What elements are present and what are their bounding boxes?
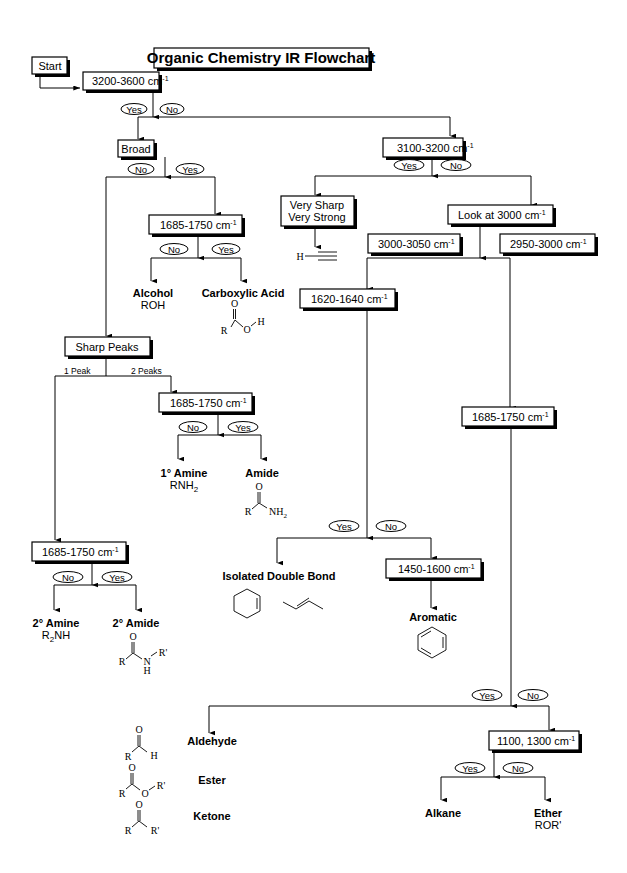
- svg-text:3200-3600 cm-1: 3200-3600 cm-1: [92, 75, 169, 87]
- start-node: Start: [32, 57, 70, 77]
- result-alkane: Alkane: [425, 807, 461, 819]
- node-sharp-peaks-label: Sharp Peaks: [76, 341, 139, 353]
- answer-no: No: [376, 521, 406, 532]
- result-ketone: Ketone O R R': [125, 799, 231, 836]
- node-1685-1750-carbonyl: 1685-1750 cm-1: [462, 407, 557, 429]
- svg-text:1100, 1300 cm-1: 1100, 1300 cm-1: [497, 735, 575, 747]
- result-alcohol: Alcohol ROH: [133, 287, 173, 311]
- svg-text:NH2: NH2: [269, 506, 287, 520]
- title-box: Organic Chemistry IR Flowchart: [147, 48, 375, 71]
- svg-text:Yes: Yes: [336, 521, 352, 532]
- svg-text:Ether: Ether: [534, 807, 563, 819]
- amide-structure: O R NH2: [245, 481, 288, 520]
- terminal-alkyne-structure: H: [296, 251, 337, 262]
- start-label: Start: [38, 60, 61, 72]
- answer-yes: Yes: [394, 160, 424, 171]
- unit-superscript: -1: [230, 219, 236, 226]
- node-1685-1750-amide: 1685-1750 cm-1: [159, 393, 255, 415]
- svg-text:ROR': ROR': [535, 819, 562, 831]
- carboxylic-acid-structure: O R O H: [221, 298, 265, 336]
- answer-yes: Yes: [212, 244, 240, 255]
- svg-text:No: No: [187, 422, 199, 433]
- node-label: 1450-1600 cm: [398, 563, 468, 575]
- node-1450-1600: 1450-1600 cm-1: [386, 559, 484, 581]
- svg-text:O: O: [135, 799, 142, 810]
- unit-superscript: -1: [542, 411, 548, 418]
- svg-text:R: R: [119, 788, 126, 799]
- svg-text:Amide: Amide: [245, 467, 279, 479]
- svg-text:No: No: [512, 763, 524, 774]
- result-ether: Ether ROR': [534, 807, 563, 831]
- svg-text:2° Amide: 2° Amide: [113, 617, 160, 629]
- node-1685-1750-secondary: 1685-1750 cm-1: [32, 542, 129, 564]
- svg-text:ROH: ROH: [141, 299, 166, 311]
- svg-text:Isolated Double Bond: Isolated Double Bond: [222, 570, 335, 582]
- svg-text:Ester: Ester: [198, 774, 226, 786]
- svg-text:Yes: Yes: [479, 690, 495, 701]
- svg-text:H: H: [150, 750, 157, 761]
- svg-text:No: No: [135, 164, 147, 175]
- answer-no: No: [160, 244, 188, 255]
- svg-text:1685-1750 cm-1: 1685-1750 cm-1: [170, 397, 247, 409]
- answer-no: No: [160, 104, 184, 115]
- svg-text:Yes: Yes: [109, 572, 125, 583]
- svg-text:R: R: [119, 656, 126, 667]
- answer-no: No: [441, 160, 471, 171]
- answer-yes: Yes: [455, 763, 485, 774]
- unit-superscript: -1: [240, 397, 246, 404]
- result-secondary-amine: 2° Amine R2NH: [33, 617, 80, 644]
- svg-text:1450-1600 cm-1: 1450-1600 cm-1: [398, 563, 475, 575]
- result-ester: Ester O R O R': [119, 762, 227, 799]
- secondary-amide-structure: O R N H R': [119, 631, 168, 676]
- svg-text:3100-3200 cm-1: 3100-3200 cm-1: [397, 142, 474, 154]
- svg-text:R': R': [159, 647, 168, 658]
- node-very-sharp-very-strong: Very Sharp Very Strong: [281, 196, 357, 229]
- answer-yes: Yes: [176, 164, 204, 175]
- node-look-at-3000: Look at 3000 cm-1: [448, 205, 556, 227]
- node-label: 3100-3200 cm: [397, 142, 467, 154]
- result-aromatic: Aromatic: [409, 611, 457, 658]
- result-primary-amine: 1° Amine RNH2: [161, 467, 208, 494]
- svg-text:R: R: [125, 825, 132, 836]
- svg-text:Look at 3000 cm-1: Look at 3000 cm-1: [458, 209, 546, 221]
- svg-text:O: O: [141, 788, 148, 799]
- node-3000-3050: 3000-3050 cm-1: [368, 234, 463, 256]
- node-1100-1300: 1100, 1300 cm-1: [489, 731, 582, 753]
- svg-text:H: H: [296, 251, 303, 262]
- svg-text:H: H: [143, 665, 150, 676]
- svg-text:O: O: [231, 298, 238, 309]
- svg-text:2° Amine: 2° Amine: [33, 617, 80, 629]
- answer-yes: Yes: [102, 572, 132, 583]
- page-title: Organic Chemistry IR Flowchart: [147, 49, 375, 66]
- answer-no: No: [179, 422, 207, 433]
- answer-no: No: [53, 572, 83, 583]
- svg-text:No: No: [385, 521, 397, 532]
- result-secondary-amide: 2° Amide O R N H R': [113, 617, 168, 676]
- svg-text:Alcohol: Alcohol: [133, 287, 173, 299]
- svg-text:Yes: Yes: [462, 763, 478, 774]
- svg-text:1685-1750 cm-1: 1685-1750 cm-1: [472, 411, 549, 423]
- result-amide: Amide O R NH2: [245, 467, 288, 520]
- unit-superscript: -1: [539, 209, 545, 216]
- node-broad: Broad: [118, 140, 157, 160]
- svg-text:Aldehyde: Aldehyde: [187, 735, 237, 747]
- node-label: 2950-3000 cm: [510, 238, 580, 250]
- node-1620-1640: 1620-1640 cm-1: [300, 289, 398, 311]
- cyclohexene-structure: [234, 589, 260, 618]
- unit-superscript: -1: [468, 563, 474, 570]
- result-isolated-double-bond: Isolated Double Bond: [222, 570, 335, 618]
- unit-superscript: -1: [162, 75, 168, 82]
- svg-text:Ketone: Ketone: [193, 810, 230, 822]
- svg-text:1685-1750 cm-1: 1685-1750 cm-1: [42, 546, 119, 558]
- unit-superscript: -1: [448, 238, 454, 245]
- svg-text:3000-3050 cm-1: 3000-3050 cm-1: [378, 238, 455, 250]
- ketone-structure: O R R': [125, 799, 160, 836]
- node-sharp-peaks: Sharp Peaks: [65, 337, 153, 359]
- ester-structure: O R O R': [119, 762, 166, 799]
- svg-text:O: O: [255, 481, 262, 492]
- svg-text:No: No: [450, 160, 462, 171]
- svg-text:Alkane: Alkane: [425, 807, 461, 819]
- svg-text:O: O: [129, 631, 136, 642]
- node-3200-3600: 3200-3600 cm-1: [83, 72, 169, 93]
- svg-text:No: No: [168, 244, 180, 255]
